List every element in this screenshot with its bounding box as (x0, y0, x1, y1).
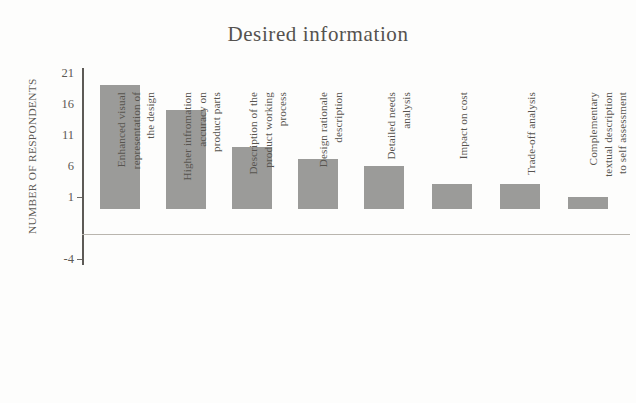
x-label-wrap-1: Higher infromation accuracy on product p… (150, 238, 210, 398)
y-tick-mark-minus4 (77, 259, 82, 260)
x-axis-label-2: Description of the product working proce… (246, 92, 290, 242)
x-axis-label-3: Design rationale description (316, 92, 345, 242)
chart-figure: Desired information NUMBER OF RESPONDENT… (0, 0, 636, 403)
x-label-wrap-5: Impact on cost (426, 238, 486, 398)
x-label-wrap-7: Complementary textual description to sel… (556, 238, 616, 398)
x-label-wrap-0: Enhanced visual representation of the de… (84, 238, 144, 398)
y-tick-label-6: 6 (50, 160, 74, 172)
x-axis-label-5: Impact on cost (456, 92, 471, 242)
x-label-wrap-6: Trade-off analysis (494, 238, 554, 398)
x-axis-line (82, 234, 630, 235)
y-tick-label-11: 11 (50, 129, 74, 141)
y-axis-line (82, 68, 84, 265)
chart-title: Desired information (0, 22, 636, 47)
x-axis-label-4: Detailed needs analysis (384, 92, 413, 242)
y-tick-label-21: 21 (50, 67, 74, 79)
x-axis-label-0: Enhanced visual representation of the de… (114, 92, 158, 242)
y-tick-label-16: 16 (50, 98, 74, 110)
y-axis-title: NUMBER OF RESPONDENTS (26, 54, 38, 234)
x-axis-label-1: Higher infromation accuracy on product p… (180, 92, 224, 242)
x-axis-label-6: Trade-off analysis (524, 92, 539, 242)
x-label-wrap-3: Design rationale description (286, 238, 346, 398)
x-label-wrap-4: Detailed needs analysis (354, 238, 414, 398)
y-tick-label-minus4: -4 (50, 253, 74, 265)
x-axis-label-7: Complementary textual description to sel… (586, 92, 630, 242)
y-tick-mark-1 (77, 197, 82, 198)
plot-area: NUMBER OF RESPONDENTS 21 16 11 6 1 -4 En (82, 68, 630, 240)
x-label-wrap-2: Description of the product working proce… (216, 238, 276, 398)
y-tick-label-1: 1 (50, 191, 74, 203)
